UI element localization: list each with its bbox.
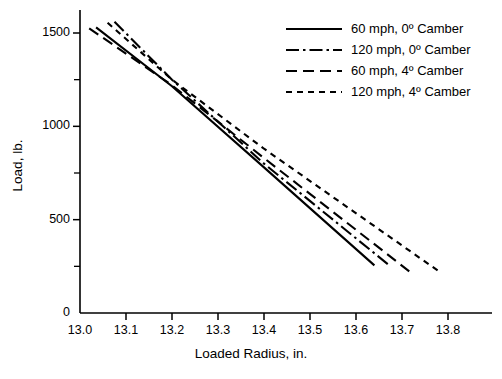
x-tick-label: 13.5	[287, 323, 333, 337]
x-tick-label: 13.1	[103, 323, 149, 337]
x-tick-label: 13.4	[241, 323, 287, 337]
legend-item: 60 mph, 4º Camber	[285, 60, 495, 81]
x-axis-title: Loaded Radius, in.	[0, 346, 502, 361]
x-tick-label: 13.3	[195, 323, 241, 337]
legend-label: 60 mph, 0º Camber	[351, 21, 463, 36]
legend-item: 120 mph, 0º Camber	[285, 39, 495, 60]
legend-label: 120 mph, 4º Camber	[351, 84, 471, 99]
x-tick-label: 13.2	[149, 323, 195, 337]
legend-item: 60 mph, 0º Camber	[285, 18, 495, 39]
legend-label: 120 mph, 0º Camber	[351, 42, 471, 57]
legend-line-swatch	[285, 85, 343, 99]
legend-line-swatch	[285, 22, 343, 36]
x-tick-label: 13.7	[379, 323, 425, 337]
y-tick-label: 0	[10, 305, 70, 319]
legend-label: 60 mph, 4º Camber	[351, 63, 463, 78]
y-tick-label: 1500	[10, 25, 70, 39]
legend-line-swatch	[285, 43, 343, 57]
x-tick-label: 13.8	[425, 323, 471, 337]
legend-item: 120 mph, 4º Camber	[285, 81, 495, 102]
y-axis-title: Load, lb.	[10, 111, 25, 221]
x-tick-label: 13.0	[57, 323, 103, 337]
chart-legend: 60 mph, 0º Camber120 mph, 0º Camber60 mp…	[285, 18, 495, 102]
legend-line-swatch	[285, 64, 343, 78]
chart-figure: 050010001500 13.013.113.213.313.413.513.…	[0, 0, 502, 379]
x-tick-label: 13.6	[333, 323, 379, 337]
